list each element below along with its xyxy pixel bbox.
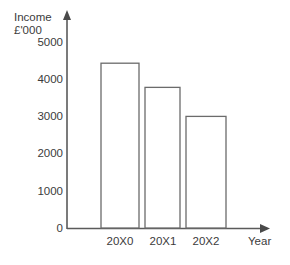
x-axis-arrow-icon [260, 224, 270, 233]
y-tick-label: 1000 [37, 185, 63, 197]
x-axis-title: Year [248, 235, 271, 247]
bar-20x1 [145, 87, 180, 228]
y-axis-arrow-icon [63, 10, 71, 20]
x-tick-label-20x2: 20X2 [193, 235, 220, 247]
y-tick-label: 2000 [37, 147, 63, 159]
bar-20x0 [101, 63, 139, 228]
y-tick-label: 3000 [37, 110, 63, 122]
chart-canvas: Income £'000 5000 4000 3000 2000 1000 0 … [0, 0, 290, 265]
bar-20x2 [186, 116, 226, 228]
y-axis-title-line1: Income [14, 11, 52, 23]
bar-chart-figure: Income £'000 5000 4000 3000 2000 1000 0 … [0, 0, 290, 265]
y-tick-label: 4000 [37, 73, 63, 85]
y-tick-label: 5000 [37, 36, 63, 48]
x-tick-label-20x0: 20X0 [107, 235, 134, 247]
y-axis-title-line2: £'000 [14, 24, 42, 36]
x-tick-label-20x1: 20X1 [150, 235, 177, 247]
y-tick-label: 0 [57, 222, 63, 234]
